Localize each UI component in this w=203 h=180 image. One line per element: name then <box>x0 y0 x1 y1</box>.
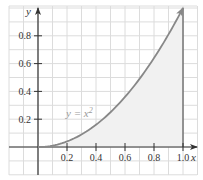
x-tick-label: 0.8 <box>148 152 161 163</box>
x-axis-label: x <box>190 151 196 163</box>
y-tick-label: 0.8 <box>19 30 32 41</box>
curve-label: y = x2 <box>65 106 93 119</box>
y-tick-label: 0.2 <box>19 114 32 125</box>
y-tick-label: 0.4 <box>19 86 32 97</box>
chart: 0.20.40.60.81.0 0.20.40.60.8 x y y = x2 <box>0 0 203 180</box>
x-tick-label: 0.2 <box>61 152 74 163</box>
x-tick-label: 0.6 <box>119 152 132 163</box>
x-tick-label: 0.4 <box>90 152 103 163</box>
x-tick-label: 1.0 <box>177 152 190 163</box>
y-axis-label: y <box>25 5 31 17</box>
y-tick-label: 0.6 <box>19 58 32 69</box>
